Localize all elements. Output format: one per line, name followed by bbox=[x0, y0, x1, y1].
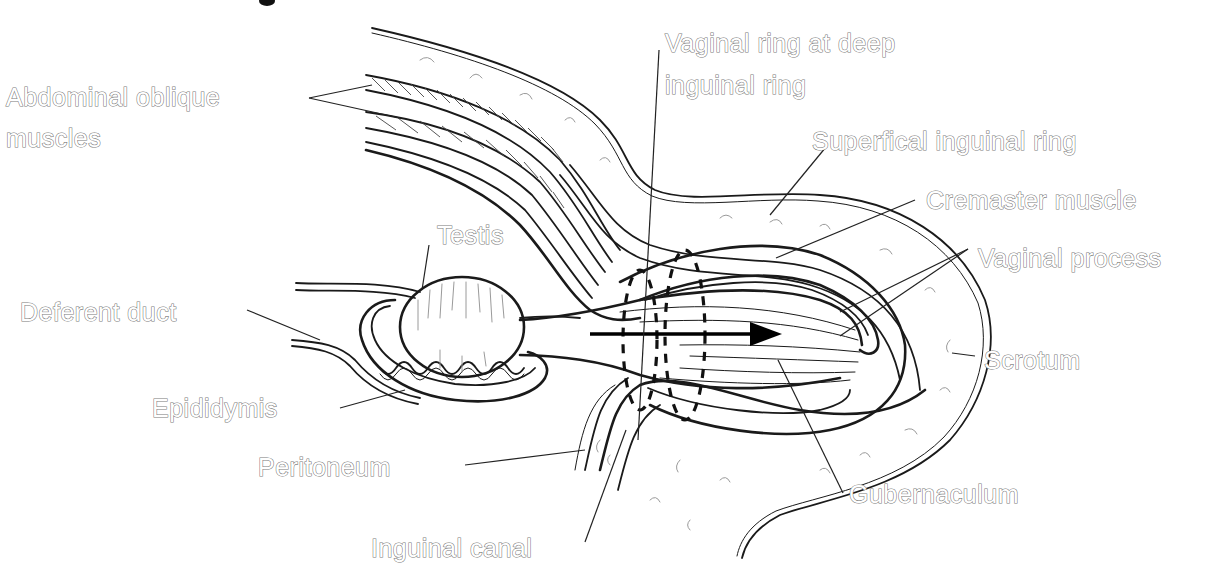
label-scrotum: Scrotum bbox=[984, 346, 1081, 374]
label-superficial-inguinal-ring: Superfical inguinal ring bbox=[812, 127, 1077, 155]
testis-group bbox=[292, 277, 580, 404]
abdominal-wall bbox=[366, 28, 991, 558]
descent-arrow bbox=[590, 322, 782, 346]
inguinal-descent-diagram: Abdominal oblique muscles Vaginal ring a… bbox=[0, 0, 1228, 569]
label-vaginal-ring-line2: inguinal ring bbox=[665, 71, 806, 99]
label-testis: Testis bbox=[437, 221, 504, 249]
title-fragment bbox=[259, 0, 275, 6]
label-gubernaculum: Gubernaculum bbox=[849, 480, 1019, 508]
label-vaginal-process: Vaginal process bbox=[978, 244, 1162, 272]
label-inguinal-canal: Inguinal canal bbox=[371, 534, 532, 562]
label-epididymis: Epididymis bbox=[152, 394, 278, 422]
label-cremaster-muscle: Cremaster muscle bbox=[926, 186, 1137, 214]
label-peritoneum: Peritoneum bbox=[258, 453, 391, 481]
label-abdominal-oblique-line2: muscles bbox=[6, 124, 101, 152]
label-vaginal-ring-line1: Vaginal ring at deep bbox=[665, 29, 896, 57]
gubernaculum bbox=[520, 291, 862, 389]
peritoneum-wall bbox=[575, 378, 925, 490]
label-abdominal-oblique-line1: Abdominal oblique bbox=[6, 83, 220, 111]
label-deferent-duct: Deferent duct bbox=[20, 298, 177, 326]
